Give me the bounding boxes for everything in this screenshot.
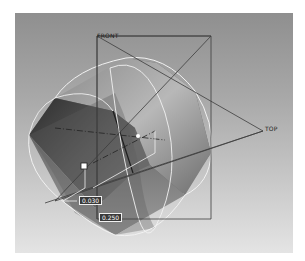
hex-prism-model[interactable] (15, 13, 293, 253)
3d-model-viewport[interactable]: FRONT TOP 0.030 0.250 (15, 13, 293, 253)
dimension-label-1[interactable]: 0.030 (79, 196, 102, 205)
front-plane-label[interactable]: FRONT (97, 32, 119, 39)
dimension-label-2[interactable]: 0.250 (99, 213, 122, 222)
drag-handle-point (136, 134, 140, 138)
drag-handle-square (81, 163, 87, 169)
top-plane-label[interactable]: TOP (265, 125, 278, 132)
